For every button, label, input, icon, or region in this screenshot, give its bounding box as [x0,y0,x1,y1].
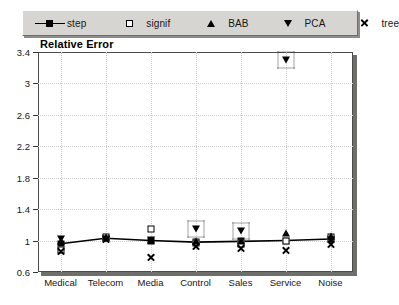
line-filled-square-icon [33,19,67,28]
triangle-down-icon [271,20,305,27]
data-point-signif-service [282,237,289,244]
legend-label: tree [381,18,399,29]
legend-item-tree[interactable]: tree [347,11,399,35]
data-point-tree-sales [236,244,245,253]
legend-label: BAB [228,18,248,29]
data-point-tree-service [281,246,290,255]
legend-item-pca[interactable]: PCA [271,11,326,35]
legend-item-signif[interactable]: signif [112,11,170,35]
cross-x-icon [347,19,381,28]
x-axis-tick-label: Media [138,277,164,288]
x-axis-tick-label: Control [180,277,211,288]
data-point-tree-noise [326,240,335,249]
y-axis-tick-label: 1.4 [0,204,30,215]
y-axis-tick-mark [33,272,38,273]
legend-entries: stepsignifBABPCAtree [23,11,357,35]
data-point-tree-telecom [101,235,110,244]
data-point-tree-media [146,253,155,262]
data-point-pca-medical [57,236,65,243]
plot-area [38,52,353,272]
highlight-box-pca-service [277,51,294,68]
open-square-icon [112,20,146,27]
plot-shadow-bottom [41,272,357,276]
x-axis-tick-label: Service [270,277,302,288]
y-axis-tick-label: 3.4 [0,47,30,58]
data-point-tree-control [191,242,200,251]
chart-title: Relative Error [40,38,114,50]
legend-label: signif [146,18,170,29]
data-point-bab-service [282,229,290,236]
triangle-up-icon [194,20,228,27]
plot-shadow-right [353,55,357,275]
x-axis-tick-label: Medical [44,277,77,288]
legend-label: step [67,18,86,29]
y-axis-tick-label: 0.6 [0,267,30,278]
x-axis-tick-label: Sales [229,277,253,288]
y-axis-tick-label: 1 [0,235,30,246]
y-axis-tick-label: 3 [0,78,30,89]
data-point-tree-medical [56,247,65,256]
x-axis-tick-label: Telecom [88,277,123,288]
y-axis-tick-label: 1.8 [0,172,30,183]
chart-legend: stepsignifBABPCAtree [22,10,358,36]
data-point-signif-media [147,225,154,232]
legend-item-bab[interactable]: BAB [194,11,248,35]
highlight-box-pca-sales [232,223,249,240]
legend-item-step[interactable]: step [33,11,86,35]
highlight-box-pca-control [187,220,204,237]
x-axis-tick-label: Noise [318,277,342,288]
data-point-pca-media [147,236,155,243]
y-axis-tick-label: 2.2 [0,141,30,152]
legend-label: PCA [305,18,326,29]
y-axis-tick-label: 2.6 [0,109,30,120]
